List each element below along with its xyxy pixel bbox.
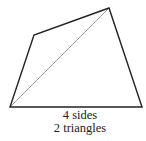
caption-triangles: 2 triangles	[0, 122, 146, 135]
diagonal-line	[10, 8, 109, 107]
quadrilateral-outline	[10, 8, 142, 107]
